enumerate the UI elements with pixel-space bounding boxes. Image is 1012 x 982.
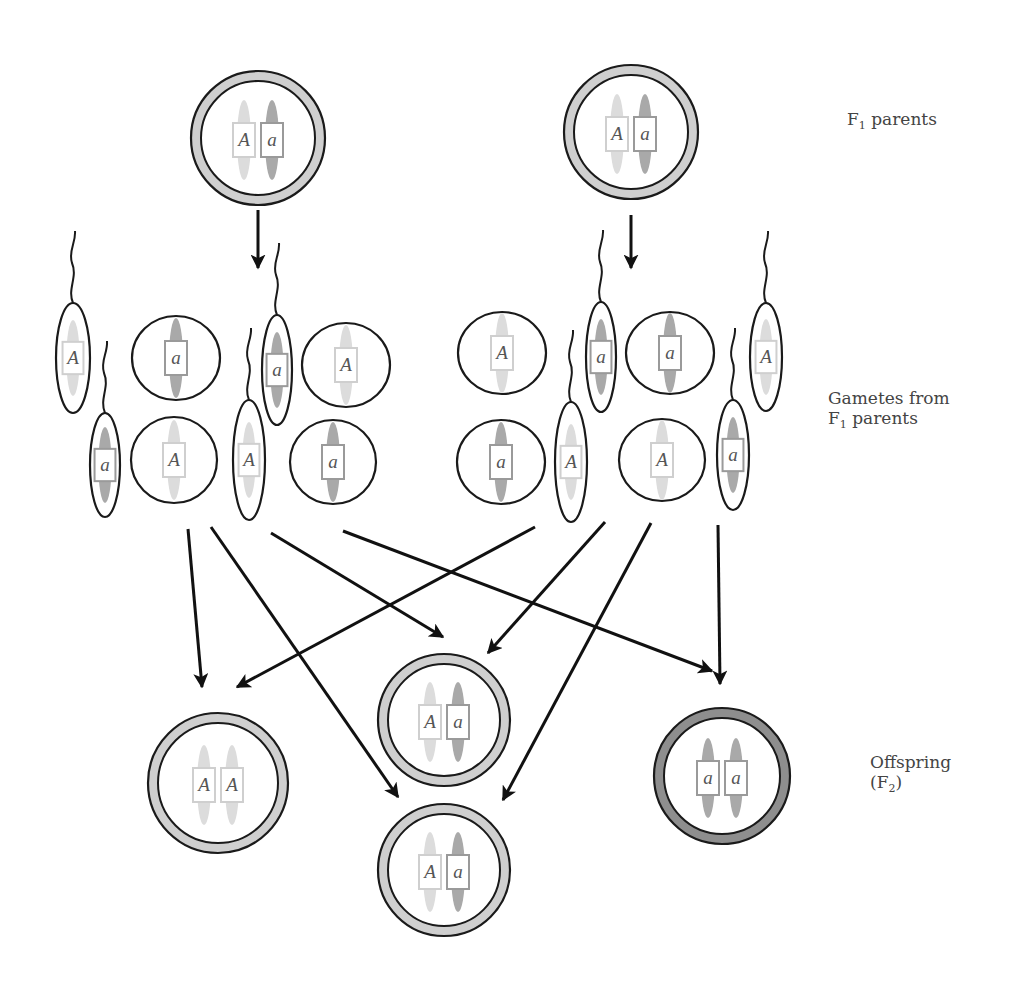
sperm-tail-icon xyxy=(599,230,603,302)
sperm-cell-A: A xyxy=(56,231,90,413)
cell-inner xyxy=(664,718,780,834)
sperm-cell-a: a xyxy=(586,230,616,412)
offspring-aa: aa xyxy=(654,708,790,844)
sperm-tail-icon xyxy=(731,328,735,400)
arrow-icon xyxy=(237,527,535,687)
allele-label: A xyxy=(166,449,180,470)
sperm-cell-A: A xyxy=(233,328,265,520)
egg-cell-a: a xyxy=(290,420,376,504)
sperm-tail-icon xyxy=(71,231,75,303)
allele-label: a xyxy=(453,711,463,732)
egg-cell-A: A xyxy=(302,323,390,407)
allele-label: A xyxy=(224,774,238,795)
allele-label: A xyxy=(241,449,255,470)
sperm-cell-a: a xyxy=(90,341,120,517)
allele-label: a xyxy=(731,767,741,788)
parent-right: Aa xyxy=(564,65,698,199)
allele-label: A xyxy=(338,354,352,375)
egg-cell-A: A xyxy=(619,419,705,501)
sperm-cell-A: A xyxy=(555,330,587,522)
sperm-tail-icon xyxy=(103,341,107,413)
offspring-Aa-top: Aa xyxy=(378,654,510,786)
allele-label: a xyxy=(100,454,110,475)
allele-label: a xyxy=(728,444,738,465)
sperm-cell-a: a xyxy=(717,328,749,510)
cell-inner xyxy=(201,81,315,195)
allele-label: a xyxy=(328,451,338,472)
sperm-cell-A: A xyxy=(750,231,782,411)
allele-label: A xyxy=(65,347,79,368)
cells-layer: AaAaAAAaaaAaAaaAaAAaAaaAaAAa xyxy=(56,65,790,936)
egg-cell-a: a xyxy=(626,312,714,394)
allele-label: a xyxy=(596,346,606,367)
parent-left: Aa xyxy=(191,71,325,205)
allele-label: A xyxy=(196,774,210,795)
allele-label: a xyxy=(171,347,181,368)
cell-inner xyxy=(388,814,500,926)
label-gametes: Gametes from F1 parents xyxy=(828,388,950,428)
label-f1-parents: F1 parents xyxy=(847,109,937,129)
arrow-icon xyxy=(503,523,651,800)
allele-label: a xyxy=(640,123,650,144)
sperm-tail-icon xyxy=(247,328,251,400)
allele-label: a xyxy=(665,342,675,363)
allele-label: A xyxy=(654,449,668,470)
egg-cell-A: A xyxy=(458,312,546,394)
allele-label: a xyxy=(496,451,506,472)
allele-label: A xyxy=(563,451,577,472)
sperm-tail-icon xyxy=(569,330,573,402)
allele-label: A xyxy=(758,346,772,367)
diagram-canvas: AaAaAAAaaaAaAaaAaAAaAaaAaAAa xyxy=(0,0,1012,982)
cell-inner xyxy=(388,664,500,776)
sperm-tail-icon xyxy=(764,231,768,303)
arrow-icon xyxy=(718,525,720,684)
egg-cell-a: a xyxy=(132,316,220,400)
monohybrid-cross-diagram: AaAaAAAaaaAaAaaAaAAaAaaAaAAa F1 parents … xyxy=(0,0,1012,982)
arrow-icon xyxy=(188,529,202,687)
sperm-cell-a: a xyxy=(262,243,292,425)
allele-label: A xyxy=(422,711,436,732)
allele-label: A xyxy=(422,861,436,882)
allele-label: a xyxy=(267,129,277,150)
allele-label: a xyxy=(272,359,282,380)
label-offspring-f2: Offspring (F2) xyxy=(870,752,951,792)
allele-label: A xyxy=(236,129,250,150)
cell-inner xyxy=(158,723,278,843)
allele-label: A xyxy=(609,123,623,144)
sperm-tail-icon xyxy=(275,243,279,315)
allele-label: A xyxy=(494,342,508,363)
egg-cell-A: A xyxy=(131,417,217,503)
egg-cell-a: a xyxy=(457,420,545,504)
allele-label: a xyxy=(703,767,713,788)
cell-inner xyxy=(574,75,688,189)
offspring-Aa-bottom: Aa xyxy=(378,804,510,936)
offspring-AA: AA xyxy=(148,713,288,853)
allele-label: a xyxy=(453,861,463,882)
